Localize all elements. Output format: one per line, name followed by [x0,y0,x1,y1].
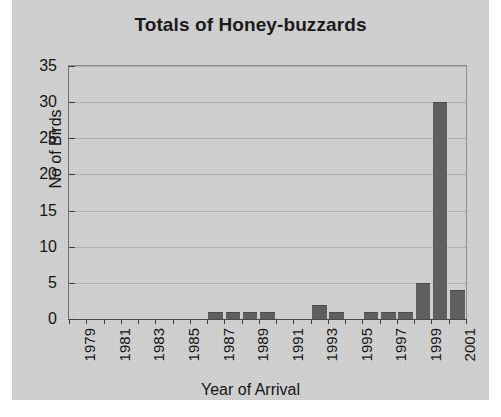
x-tick-mark [259,319,260,324]
x-tick-mark [466,319,467,324]
y-tick-label: 30 [11,93,57,111]
x-tick-mark [362,319,363,324]
x-tick-mark [69,319,70,324]
x-tick-mark [414,319,415,324]
x-tick-mark [276,319,277,324]
bar-slot [190,66,207,319]
bar-slot [449,66,466,319]
x-tick-label: 1987 [220,328,237,361]
x-tick-label: 1981 [116,328,133,361]
bar-slot [155,66,172,319]
bar-slot [414,66,431,319]
y-tick-label: 0 [11,310,57,328]
bar[interactable] [208,312,222,319]
bar[interactable] [226,312,240,319]
x-tick-mark [242,319,243,324]
x-tick-mark [86,319,87,324]
bar[interactable] [450,290,464,319]
x-tick-mark [293,319,294,324]
bar-slot [86,66,103,319]
bar-slot [207,66,224,319]
plot-area: 05101520253035 1979198119831985198719891… [68,65,467,320]
bar[interactable] [329,312,343,319]
x-tick-label: 1995 [358,328,375,361]
bar-slot [362,66,379,319]
bar-slot [69,66,86,319]
bar-slot [242,66,259,319]
bar-slot [345,66,362,319]
x-tick-label: 2001 [461,328,478,361]
x-tick-mark [449,319,450,324]
y-tick-label: 35 [11,57,57,75]
x-tick-mark [328,319,329,324]
bar-slot [138,66,155,319]
x-tick-mark [138,319,139,324]
x-tick-label: 1979 [81,328,98,361]
y-tick-label: 5 [11,274,57,292]
x-tick-label: 1991 [289,328,306,361]
bar-slot [328,66,345,319]
x-tick-mark [311,319,312,324]
x-tick-mark [190,319,191,324]
bar-series [69,66,466,319]
bar-slot [397,66,414,319]
bar[interactable] [433,102,447,319]
x-tick-mark [207,319,208,324]
bar[interactable] [416,283,430,319]
x-axis-title: Year of Arrival [0,381,501,399]
bar-slot [431,66,448,319]
x-tick-label: 1993 [323,328,340,361]
bar-slot [224,66,241,319]
x-tick-mark [173,319,174,324]
bar[interactable] [398,312,412,319]
bar-slot [121,66,138,319]
bar-slot [259,66,276,319]
bar-slot [276,66,293,319]
x-tick-label: 1997 [392,328,409,361]
chart-figure: Totals of Honey-buzzards No of Birds 051… [0,0,501,417]
bar-slot [293,66,310,319]
x-tick-mark [104,319,105,324]
bar[interactable] [312,305,326,319]
bar[interactable] [364,312,378,319]
bar[interactable] [381,312,395,319]
y-tick-label: 20 [11,165,57,183]
bar[interactable] [260,312,274,319]
bar-slot [173,66,190,319]
y-tick-label: 10 [11,238,57,256]
bar[interactable] [243,312,257,319]
y-tick-label: 15 [11,202,57,220]
x-tick-label: 1999 [427,328,444,361]
x-tick-mark [224,319,225,324]
x-tick-label: 1989 [254,328,271,361]
x-tick-mark [121,319,122,324]
bar-slot [380,66,397,319]
x-tick-label: 1985 [185,328,202,361]
y-tick-label: 25 [11,129,57,147]
x-tick-mark [431,319,432,324]
bar-slot [104,66,121,319]
x-tick-mark [155,319,156,324]
x-tick-mark [380,319,381,324]
bar-slot [311,66,328,319]
x-tick-label: 1983 [150,328,167,361]
chart-title: Totals of Honey-buzzards [0,14,501,36]
x-tick-mark [345,319,346,324]
x-tick-mark [397,319,398,324]
